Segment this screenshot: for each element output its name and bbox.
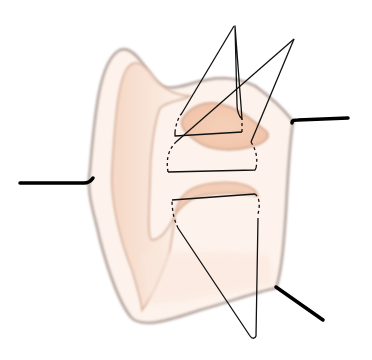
lower-body-shading [140,251,272,305]
diagram-svg [0,0,372,360]
body-shape [89,49,293,323]
left-lead [20,178,93,183]
diagram-canvas [0,0,372,360]
lower-right-lead [276,287,323,320]
upper-right-lead [292,118,348,123]
